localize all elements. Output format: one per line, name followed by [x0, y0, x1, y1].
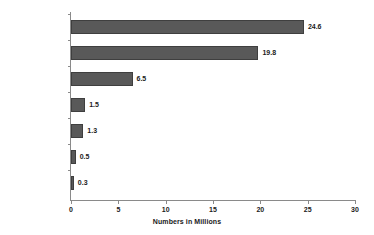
- x-axis-tick-label: 0: [69, 206, 73, 213]
- bar-value-label: 6.5: [133, 72, 147, 86]
- bar-row: Hallucinogens1.3: [71, 118, 355, 144]
- x-axis-tick: [308, 200, 309, 204]
- y-axis-tick: [68, 92, 71, 93]
- x-axis-tick-label: 5: [116, 206, 120, 213]
- bar-value-label: 1.3: [83, 124, 97, 138]
- y-axis-tick: [68, 144, 71, 145]
- x-axis-tick: [260, 200, 261, 204]
- bar: [71, 98, 85, 112]
- bar-row: Cocaine1.5: [71, 92, 355, 118]
- x-axis-tick-label: 25: [304, 206, 312, 213]
- x-axis-tick-label: 30: [351, 206, 359, 213]
- x-axis-tick: [71, 200, 72, 204]
- plot-area: Illicit Drugs24.6Marijuana19.8Prescripti…: [71, 12, 355, 200]
- y-axis-tick: [68, 66, 71, 67]
- bar: [71, 124, 83, 138]
- x-axis-tick-label: 10: [162, 206, 170, 213]
- bar-row: Heroin0.3: [71, 170, 355, 196]
- bar-row: Prescription Drugs6.5: [71, 66, 355, 92]
- x-axis-title: Numbers in Millions: [0, 218, 374, 225]
- bar-value-label: 24.6: [304, 20, 322, 34]
- x-axis-tick-label: 20: [256, 206, 264, 213]
- bar: [71, 46, 258, 60]
- bar-row: Illicit Drugs24.6: [71, 14, 355, 40]
- x-axis-tick-label: 15: [209, 206, 217, 213]
- y-axis-tick: [68, 14, 71, 15]
- bar: [71, 20, 304, 34]
- x-axis-tick: [213, 200, 214, 204]
- bar-value-label: 19.8: [258, 46, 276, 60]
- bar-chart: Illicit Drugs24.6Marijuana19.8Prescripti…: [0, 0, 374, 235]
- x-axis-tick: [166, 200, 167, 204]
- y-axis-tick: [68, 40, 71, 41]
- x-axis-tick: [355, 200, 356, 204]
- y-axis-tick: [68, 170, 71, 171]
- bar-value-label: 0.5: [76, 150, 90, 164]
- x-axis-tick: [118, 200, 119, 204]
- bar-row: Inhalants0.5: [71, 144, 355, 170]
- y-axis-tick: [68, 118, 71, 119]
- bar-value-label: 0.3: [74, 176, 88, 190]
- bar-value-label: 1.5: [85, 98, 99, 112]
- bar-row: Marijuana19.8: [71, 40, 355, 66]
- bar: [71, 72, 133, 86]
